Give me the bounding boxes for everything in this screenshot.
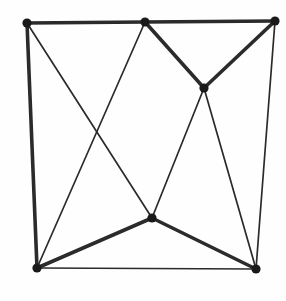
graph-vertex-inner-right bbox=[199, 83, 208, 92]
graph-vertex-bottom-left bbox=[32, 263, 41, 272]
graph-edge-top-middle-to-top-right bbox=[145, 21, 275, 22]
graph-edge-bottom-left-to-bottom-right bbox=[37, 268, 256, 269]
graph-canvas bbox=[0, 0, 286, 301]
graph-vertex-top-left bbox=[22, 18, 31, 27]
graph-edge-top-left-to-top-middle bbox=[27, 22, 145, 23]
graph-vertex-center-bottom bbox=[147, 213, 156, 222]
graph-vertex-top-middle bbox=[140, 17, 149, 26]
graph-vertex-bottom-right bbox=[251, 264, 260, 273]
graph-figure bbox=[0, 0, 286, 301]
graph-vertex-top-right bbox=[270, 16, 279, 25]
